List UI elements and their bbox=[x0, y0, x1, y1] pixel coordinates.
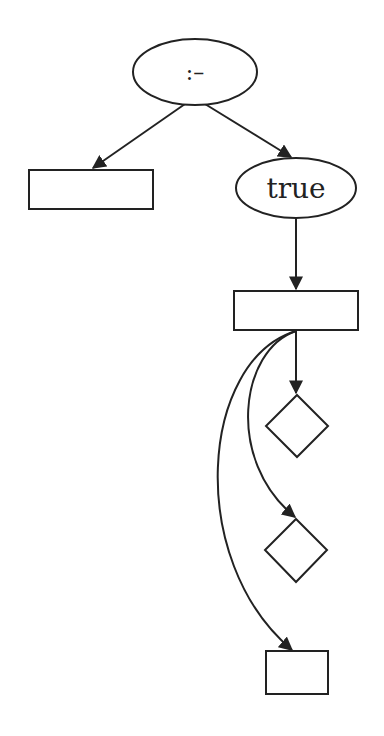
diamond-1-node bbox=[266, 395, 328, 457]
edge-root-to-left-box bbox=[93, 104, 185, 168]
diagram-canvas: :– true bbox=[0, 0, 384, 736]
bottom-box-node bbox=[266, 651, 328, 694]
diamond-2-node bbox=[265, 519, 327, 582]
edge-root-to-true bbox=[205, 104, 291, 157]
root-node-label: :– bbox=[186, 60, 204, 85]
mid-box-node bbox=[234, 291, 358, 330]
true-node-label: true bbox=[266, 172, 325, 205]
left-box-node bbox=[29, 170, 153, 209]
edge-mid-box-to-bottom-box bbox=[218, 331, 296, 650]
